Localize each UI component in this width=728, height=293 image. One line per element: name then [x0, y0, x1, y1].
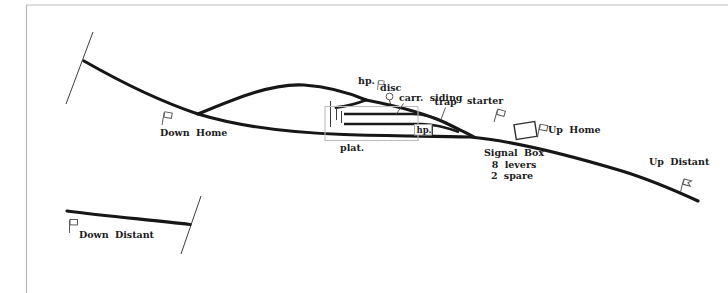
starter-signal-icon — [494, 109, 505, 124]
down-line-continuation-track — [67, 211, 190, 225]
up-home-signal-icon — [538, 124, 548, 139]
up-distant-signal-icon — [681, 179, 692, 194]
down-distant-signal-icon — [70, 220, 78, 234]
platform-label: plat. — [340, 142, 364, 153]
loop-line-track — [198, 85, 366, 114]
down-home-signal-icon — [162, 112, 172, 127]
down-home-label: Down Home — [160, 127, 227, 138]
signal-box-levers-label: 8 levers — [492, 159, 537, 170]
up-home-label: Up Home — [548, 124, 601, 135]
trap-leader-line — [441, 108, 446, 120]
signal-box-spare-label: 2 spare — [491, 170, 533, 181]
down-distant-label: Down Distant — [79, 229, 155, 240]
trap-label: trap — [435, 96, 458, 107]
up-distant-label: Up Distant — [649, 156, 710, 167]
hp-platform-label: hp. — [417, 125, 432, 135]
starter-label: starter — [467, 95, 504, 106]
disc-signal-icon — [386, 93, 393, 100]
lower-siding-track — [344, 124, 459, 132]
signal-box-label: Signal Box — [484, 147, 544, 158]
disc-signal-stem — [390, 100, 391, 104]
hp-upper-label: hp. — [358, 75, 375, 86]
signal-box-icon — [514, 121, 537, 139]
break-mark-top-left — [66, 32, 93, 104]
track-plan-svg: Down Home hp. disc carr. siding trap sta… — [0, 0, 728, 293]
scanned-track-plan-page: Down Home hp. disc carr. siding trap sta… — [0, 0, 728, 293]
